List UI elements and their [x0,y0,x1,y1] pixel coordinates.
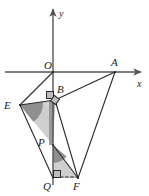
vertex-dot-o [52,71,54,73]
point-label-p: P [38,137,45,148]
vertex-dots [19,71,116,179]
segments-group [20,72,115,178]
vertex-dot-f [77,177,79,179]
axes-group [5,9,141,185]
vertex-dot-p [52,144,54,146]
segment-o-e [20,72,53,105]
right-angle-marker-q [54,171,61,178]
segment-a-f [78,72,115,178]
figure-canvas [0,0,149,196]
point-label-a: A [111,57,118,68]
point-label-f: F [73,181,80,192]
point-label-q: Q [43,181,51,192]
point-label-e: E [4,100,11,111]
point-label-o: O [44,60,52,71]
vertex-dot-a [114,71,116,73]
x-axis-label: x [137,79,141,89]
shaded-band-bp [49,100,55,145]
y-axis-label: y [59,9,63,19]
segment-b-a [55,72,115,100]
point-label-b: B [57,84,64,95]
geometry-figure: O A B E P Q F x y [0,0,149,196]
vertex-dot-e [19,104,21,106]
